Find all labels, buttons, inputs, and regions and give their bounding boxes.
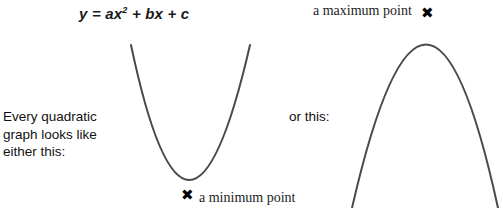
maximum-point-marker-icon: ✖ <box>421 6 434 21</box>
parabola-curves <box>0 0 503 208</box>
left-caption: Every quadratic graph looks like either … <box>3 108 97 161</box>
downward-parabola-path <box>352 45 498 209</box>
left-caption-line-1: Every quadratic <box>3 108 97 126</box>
left-caption-line-3: either this: <box>3 143 97 161</box>
quadratic-graph-figure: y = ax2 + bx + c ✖ ✖ a minimum point a m… <box>0 0 503 208</box>
left-caption-line-2: graph looks like <box>3 126 97 144</box>
maximum-point-label: a maximum point <box>313 3 412 19</box>
right-caption-line-1: or this: <box>289 108 330 126</box>
minimum-point-label: a minimum point <box>199 190 295 206</box>
right-caption: or this: <box>289 108 330 126</box>
minimum-point-marker-icon: ✖ <box>181 188 194 203</box>
upward-parabola-path <box>131 45 250 180</box>
